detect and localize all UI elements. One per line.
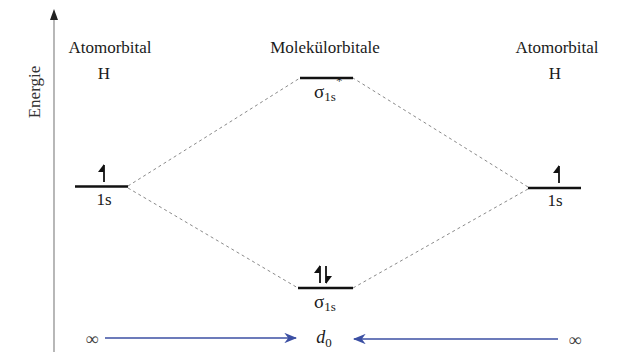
sigma-subscript: 1s — [324, 89, 336, 104]
right-orbital-label: 1s — [547, 191, 562, 211]
sigma-symbol: σ — [314, 291, 324, 312]
right-atom-element: H — [549, 64, 561, 84]
sigma-symbol: σ — [314, 81, 324, 102]
sigma-star-label: σ1s* — [314, 81, 336, 105]
sigma-label: σ1s — [314, 291, 336, 315]
right-electron-up-icon — [553, 165, 559, 183]
right-infinity-label: ∞ — [569, 330, 582, 351]
sigma-subscript: 1s — [324, 299, 336, 314]
left-atom-element: H — [98, 64, 110, 84]
equilibrium-distance-label: d0 — [316, 327, 332, 352]
left-electron-up-icon — [98, 164, 104, 182]
axis-arrow-icon — [50, 9, 58, 20]
left-atom-title: Atomorbital — [68, 38, 151, 58]
molecule-title: Molekülorbitale — [270, 38, 380, 58]
energy-axis — [50, 9, 58, 352]
d-symbol: d — [316, 327, 325, 347]
bonding-electron-pair-icon — [314, 265, 332, 284]
right-atom-title: Atomorbital — [515, 38, 598, 58]
antibonding-star: * — [336, 73, 343, 89]
left-orbital-label: 1s — [96, 190, 111, 210]
d-subscript: 0 — [325, 335, 332, 350]
correlation-lines — [128, 78, 528, 288]
energy-axis-label: Energie — [25, 66, 45, 119]
left-infinity-label: ∞ — [86, 329, 99, 350]
